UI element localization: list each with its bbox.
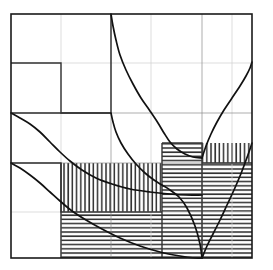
diagram-canvas (0, 0, 273, 270)
region-lower-right-horizontal (202, 163, 252, 258)
region-upper-right-vertical (202, 143, 252, 163)
region-mid-left-vertical (61, 163, 162, 212)
region-bottom-left-horizontal (61, 212, 162, 258)
figure-root (0, 0, 273, 270)
